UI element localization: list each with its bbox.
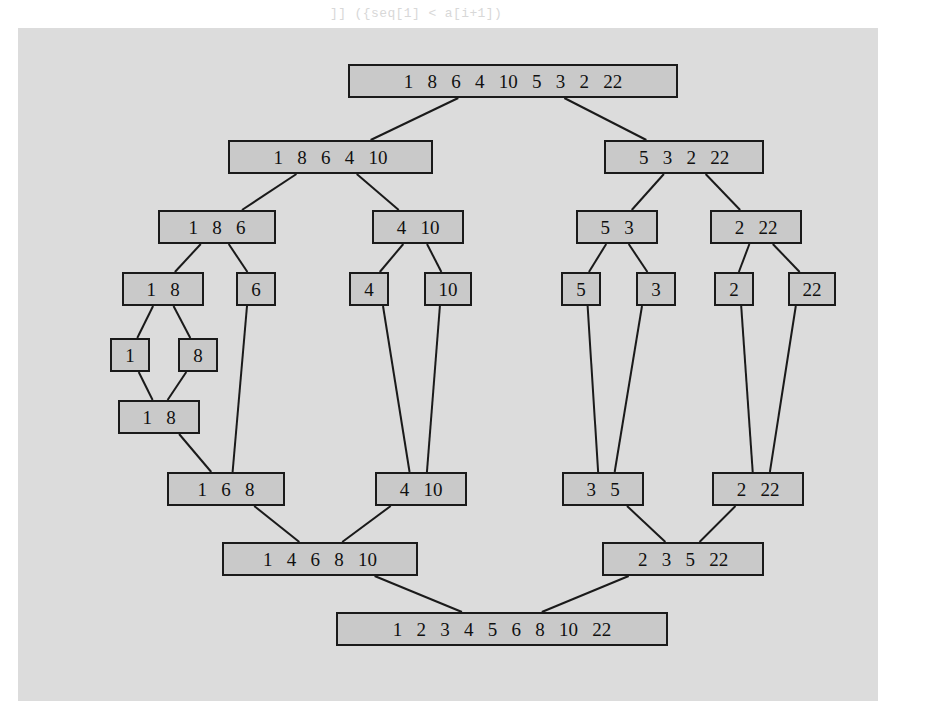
tree-node: 1 6 8: [167, 472, 285, 506]
tree-edge: [706, 174, 741, 210]
tree-edge: [380, 244, 404, 272]
tree-edge: [627, 506, 665, 542]
tree-node-values: 4 10: [393, 480, 450, 499]
tree-edge: [770, 306, 796, 472]
tree-edge: [564, 98, 646, 140]
tree-edge: [371, 98, 459, 140]
tree-edge: [615, 306, 642, 472]
tree-node-values: 1: [118, 346, 142, 365]
tree-edge: [383, 306, 410, 472]
tree-edge: [739, 244, 750, 272]
tree-node: 5: [561, 272, 601, 306]
tree-edge: [342, 506, 390, 542]
tree-edge: [179, 434, 211, 472]
tree-node: 1 4 6 8 10: [222, 542, 418, 576]
tree-node-values: 1 2 3 4 5 6 8 10 22: [386, 620, 619, 639]
tree-node: 1 8 6 4 10 5 3 2 22: [348, 64, 678, 98]
tree-node-values: 2 22: [728, 218, 785, 237]
tree-node-values: 1 8 6 4 10 5 3 2 22: [397, 72, 630, 91]
tree-node-values: 4 10: [390, 218, 447, 237]
tree-node: 22: [788, 272, 836, 306]
tree-node: 5 3 2 22: [604, 140, 764, 174]
tree-edge: [588, 306, 599, 472]
tree-edge: [168, 372, 187, 400]
tree-node-values: 1 4 6 8 10: [256, 550, 384, 569]
tree-edge: [357, 174, 399, 210]
tree-node-values: 1 8 6 4 10: [267, 148, 395, 167]
tree-edge: [427, 306, 440, 472]
tree-edge: [242, 174, 296, 210]
tree-edge: [375, 576, 462, 612]
tree-node: 6: [236, 272, 276, 306]
tree-edge: [629, 244, 648, 272]
tree-node-values: 1 8: [139, 280, 186, 299]
tree-node: 8: [178, 338, 218, 372]
tree-node: 4: [349, 272, 389, 306]
tree-node-values: 4: [357, 280, 381, 299]
tree-edge: [773, 244, 800, 272]
tree-node-values: 5 3 2 22: [632, 148, 736, 167]
tree-node: 1 8 6 4 10: [228, 140, 433, 174]
tree-node: 10: [424, 272, 472, 306]
tree-node: 2: [714, 272, 754, 306]
tree-node-values: 2 22: [730, 480, 787, 499]
tree-node-values: 1 8 6: [182, 218, 253, 237]
tree-edge: [137, 306, 153, 338]
tree-edge: [175, 244, 201, 272]
tree-node: 2 3 5 22: [602, 542, 764, 576]
tree-edge: [700, 506, 736, 542]
tree-node-values: 6: [244, 280, 268, 299]
tree-edge: [174, 306, 191, 338]
tree-node-values: 5 3: [593, 218, 640, 237]
tree-node-values: 3: [644, 280, 668, 299]
tree-edge: [741, 306, 753, 472]
tree-node-values: 5: [569, 280, 593, 299]
tree-edge: [229, 244, 248, 272]
tree-edge: [233, 306, 247, 472]
tree-node-values: 8: [186, 346, 210, 365]
tree-node: 1: [110, 338, 150, 372]
tree-node: 4 10: [375, 472, 467, 506]
tree-edge: [542, 576, 629, 612]
tree-node-values: 3 5: [579, 480, 626, 499]
merge-sort-diagram: 1 8 6 4 10 5 3 2 221 8 6 4 105 3 2 221 8…: [0, 0, 946, 727]
tree-node: 1 8 6: [158, 210, 276, 244]
tree-node: 3: [636, 272, 676, 306]
tree-node: 1 2 3 4 5 6 8 10 22: [336, 612, 668, 646]
tree-node-values: 1 6 8: [191, 480, 262, 499]
tree-node-values: 2 3 5 22: [631, 550, 735, 569]
tree-node: 2 22: [710, 210, 802, 244]
tree-edge: [139, 372, 153, 400]
tree-edge: [632, 174, 664, 210]
tree-node-values: 1 8: [135, 408, 182, 427]
tree-node-values: 2: [722, 280, 746, 299]
tree-node: 3 5: [562, 472, 644, 506]
tree-node: 1 8: [118, 400, 200, 434]
tree-edge: [589, 244, 606, 272]
tree-node-values: 10: [432, 280, 465, 299]
tree-node-values: 22: [796, 280, 829, 299]
tree-node: 2 22: [712, 472, 804, 506]
tree-edge: [254, 506, 299, 542]
tree-node: 5 3: [576, 210, 658, 244]
tree-node: 1 8: [122, 272, 204, 306]
tree-node: 4 10: [372, 210, 464, 244]
tree-edge: [427, 244, 441, 272]
